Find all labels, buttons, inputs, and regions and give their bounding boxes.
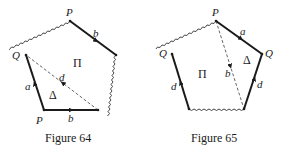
figure-caption: Figure 65	[191, 131, 237, 145]
vertex-label-q: Q	[12, 49, 20, 61]
arrow-icon	[63, 83, 64, 84]
edge-label-b: b	[225, 67, 231, 79]
wavy-edge-top-left	[9, 21, 70, 50]
vertex-label-q-right: Q	[265, 47, 273, 59]
arrow-icon	[240, 38, 241, 39]
region-label-pi: Π	[73, 56, 82, 70]
region-label-delta: Δ	[243, 53, 251, 67]
edge-a-top-right	[216, 21, 262, 54]
figure-64: P Q P b a b d Π Δ Figure 64	[9, 6, 117, 145]
edge-label-d-left: d	[171, 80, 177, 92]
edge-label-b-bottom: b	[68, 112, 74, 124]
edge-label-d: d	[59, 71, 65, 83]
wavy-edge-right	[108, 55, 117, 116]
region-label-delta: Δ	[49, 88, 57, 102]
vertex-label-q-left: Q	[159, 47, 167, 59]
arrow-icon	[95, 40, 96, 41]
figure-65: P Q Q a b d d Π Δ Figure 65	[156, 6, 273, 145]
wavy-edge-bottom	[189, 109, 244, 111]
figure-caption: Figure 64	[45, 131, 91, 145]
vertex-label-p-top: P	[211, 6, 219, 18]
edge-label-a: a	[240, 25, 246, 37]
wavy-edge-top-left	[156, 21, 216, 49]
region-label-pi: Π	[198, 67, 207, 81]
edge-label-b-top: b	[93, 27, 99, 39]
edge-label-a: a	[25, 80, 31, 92]
vertex-label-p-bottom: P	[35, 114, 43, 126]
edge-label-d-right: d	[257, 78, 263, 90]
vertex-label-p-top: P	[65, 6, 73, 18]
figures-canvas: P Q P b a b d Π Δ Figure 64 P Q Q a b d …	[0, 0, 287, 150]
